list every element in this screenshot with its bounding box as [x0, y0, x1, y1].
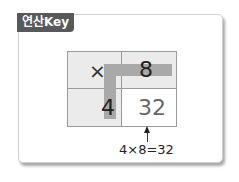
multiplier-value: 8	[139, 59, 153, 81]
multiplication-grid: × 8 4 32	[67, 51, 177, 127]
times-operator: ×	[89, 60, 106, 82]
result-value: 32	[138, 97, 166, 119]
multiplicand-value: 4	[101, 97, 115, 119]
arrow-stem	[147, 132, 148, 142]
equation-text: 4×8=32	[119, 142, 174, 157]
card-tab-label: 연산Key	[17, 13, 74, 32]
